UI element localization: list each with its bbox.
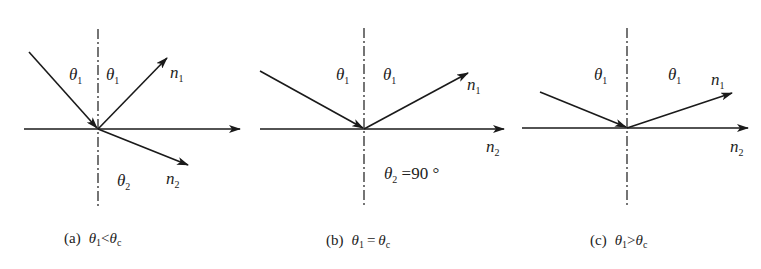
incident-angle-label: θ1 — [336, 65, 349, 86]
refracted-ray-arrow — [98, 129, 188, 165]
panel-c: θ1 θ1 n1 n2 (c)θ1>θc — [522, 28, 748, 250]
reflected-ray-arrow — [627, 93, 732, 128]
total-internal-reflection-figure: θ1 θ1 n1 θ2 n2 (a)θ1<θc θ1 θ1 n1 n2 θ2 =… — [0, 0, 761, 269]
panel-b: θ1 θ1 n1 n2 θ2 =90 ° (b)θ1=θc — [260, 28, 504, 250]
refracted-angle-label: θ2 — [117, 171, 130, 192]
incident-ray-arrow — [540, 92, 626, 127]
incident-angle-label: θ1 — [594, 65, 607, 86]
reflected-angle-label: θ1 — [668, 65, 681, 86]
medium-n1-label: n1 — [711, 70, 725, 91]
incident-ray-arrow — [29, 52, 97, 128]
incident-angle-label: θ1 — [69, 65, 82, 86]
medium-n2-label: n2 — [486, 137, 500, 158]
refracted-angle-label: θ2 =90 ° — [384, 164, 439, 185]
caption-c: (c)θ1>θc — [590, 232, 648, 250]
reflected-angle-label: θ1 — [106, 65, 119, 86]
panel-a: θ1 θ1 n1 θ2 n2 (a)θ1<θc — [24, 29, 240, 248]
medium-n1-label: n1 — [467, 75, 481, 96]
reflected-angle-label: θ1 — [383, 65, 396, 86]
medium-n2-label: n2 — [730, 137, 744, 158]
medium-n2-label: n2 — [166, 169, 180, 190]
caption-b: (b)θ1=θc — [326, 232, 391, 250]
reflected-ray-arrow — [364, 73, 468, 129]
medium-n1-label: n1 — [170, 63, 184, 84]
caption-a: (a)θ1<θc — [64, 230, 122, 248]
